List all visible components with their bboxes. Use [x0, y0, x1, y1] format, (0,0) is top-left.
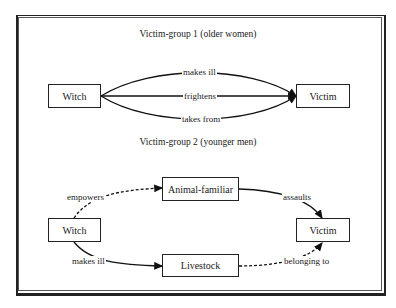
label-takes-from: takes from: [181, 114, 221, 124]
group1-title: Victim-group 1 (older women): [0, 29, 396, 39]
node-witch-2: Witch: [48, 218, 101, 242]
label-empowers: empowers: [66, 192, 105, 202]
node-animal-familiar: Animal-familiar: [162, 177, 239, 201]
group2-title: Victim-group 2 (younger men): [0, 137, 396, 147]
label-makes-ill-1: makes ill: [182, 67, 217, 77]
node-livestock: Livestock: [162, 254, 239, 277]
label-assaults: assaults: [282, 192, 312, 202]
label-makes-ill-2: makes ill: [71, 256, 106, 266]
node-victim-1: Victim: [296, 84, 350, 108]
node-witch-1: Witch: [48, 84, 101, 108]
label-belonging-to: belonging to: [283, 256, 330, 266]
label-frightens: frightens: [183, 91, 217, 101]
node-victim-2: Victim: [296, 218, 350, 242]
